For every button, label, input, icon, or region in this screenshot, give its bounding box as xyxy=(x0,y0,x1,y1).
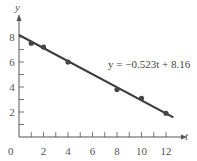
x-tick-label: 8 xyxy=(114,145,120,157)
axes xyxy=(17,14,188,140)
data-point xyxy=(65,59,70,64)
data-point xyxy=(114,87,119,92)
data-point xyxy=(139,96,144,101)
y-tick-label: 8 xyxy=(9,31,15,43)
y-axis-arrow-icon xyxy=(17,14,22,21)
x-tick-label: 12 xyxy=(161,145,172,157)
data-point xyxy=(29,41,34,46)
x-tick-label: 4 xyxy=(65,145,71,157)
data-point xyxy=(41,44,46,49)
y-tick-label: 6 xyxy=(9,56,15,68)
x-tick-label: 10 xyxy=(136,145,148,157)
y-tick-label: 4 xyxy=(9,81,15,93)
data-point xyxy=(163,111,168,116)
scatter-chart: 246810122468 y = −0.523t + 8.16 y t 0 xyxy=(0,0,197,161)
x-tick-label: 2 xyxy=(41,145,47,157)
ticks: 246810122468 xyxy=(9,31,171,157)
y-axis-label: y xyxy=(14,1,20,13)
origin-label: 0 xyxy=(8,145,14,157)
y-tick-label: 2 xyxy=(9,106,15,118)
x-tick-label: 6 xyxy=(90,145,96,157)
regression-equation: y = −0.523t + 8.16 xyxy=(108,58,191,70)
x-axis-label: t xyxy=(185,130,189,142)
